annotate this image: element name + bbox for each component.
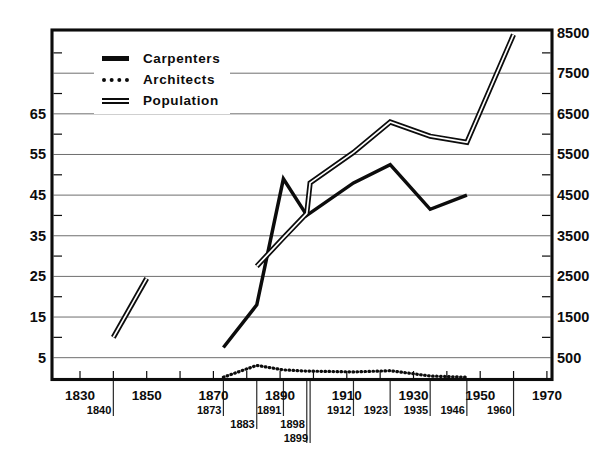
legend-label-architects: Architects xyxy=(143,72,215,87)
x-axis-major-label: 1970 xyxy=(532,388,562,403)
line-chart-canvas: 1840187318831891189818991912192319351946… xyxy=(0,0,610,458)
series-architects-line xyxy=(223,365,467,377)
series-population-line-core xyxy=(113,278,146,337)
chart-figure: 1840187318831891189818991912192319351946… xyxy=(0,0,610,458)
event-year-label: 1891 xyxy=(257,404,281,416)
x-axis-major-label: 1910 xyxy=(332,388,362,403)
series-carpenters-line xyxy=(223,165,467,348)
left-axis-tick-label: 45 xyxy=(30,187,46,203)
legend-entry-population: Population xyxy=(102,90,220,111)
right-axis-tick-label: 2500 xyxy=(557,268,589,284)
series-population-line-core xyxy=(257,35,514,267)
event-year-label: 1935 xyxy=(404,404,428,416)
left-axis-tick-label: 55 xyxy=(30,146,46,162)
event-year-label: 1883 xyxy=(230,418,254,430)
event-year-label: 1946 xyxy=(440,404,464,416)
event-year-label: 1898 xyxy=(280,418,304,430)
event-year-label: 1873 xyxy=(197,404,221,416)
left-axis-tick-label: 65 xyxy=(30,106,46,122)
event-year-label: 1912 xyxy=(327,404,351,416)
right-axis-tick-label: 4500 xyxy=(557,187,589,203)
x-axis-major-label: 1930 xyxy=(398,388,428,403)
right-axis-tick-label: 8500 xyxy=(557,25,589,41)
legend-entry-carpenters: Carpenters xyxy=(102,48,220,69)
x-axis-major-label: 1950 xyxy=(465,388,495,403)
carpenters-solid-line-swatch xyxy=(102,56,129,61)
right-axis-tick-label: 3500 xyxy=(557,228,589,244)
x-axis-major-label: 1870 xyxy=(198,388,228,403)
event-year-label: 1923 xyxy=(364,404,388,416)
legend-label-population: Population xyxy=(143,93,219,108)
right-axis-tick-label: 6500 xyxy=(557,106,589,122)
legend-label-carpenters: Carpenters xyxy=(143,51,220,66)
left-axis-tick-label: 15 xyxy=(30,309,46,325)
chart-legend: Carpenters Architects Population xyxy=(94,45,230,114)
right-axis-tick-label: 7500 xyxy=(557,65,589,81)
legend-entry-architects: Architects xyxy=(102,69,220,90)
right-axis-tick-label: 5500 xyxy=(557,146,589,162)
population-double-line-swatch xyxy=(102,98,129,104)
right-axis-tick-label: 1500 xyxy=(557,309,589,325)
event-year-label: 1960 xyxy=(487,404,511,416)
right-axis-tick-label: 500 xyxy=(557,350,581,366)
series-population-line-outer xyxy=(257,35,514,267)
event-year-label: 1899 xyxy=(284,432,308,444)
x-axis-major-label: 1890 xyxy=(265,388,295,403)
event-year-label: 1840 xyxy=(87,404,111,416)
architects-dotted-line-swatch xyxy=(102,78,129,82)
x-axis-major-label: 1830 xyxy=(65,388,95,403)
left-axis-tick-label: 25 xyxy=(30,268,46,284)
left-axis-tick-label: 5 xyxy=(38,350,46,366)
x-axis-major-label: 1850 xyxy=(132,388,162,403)
left-axis-tick-label: 35 xyxy=(30,228,46,244)
